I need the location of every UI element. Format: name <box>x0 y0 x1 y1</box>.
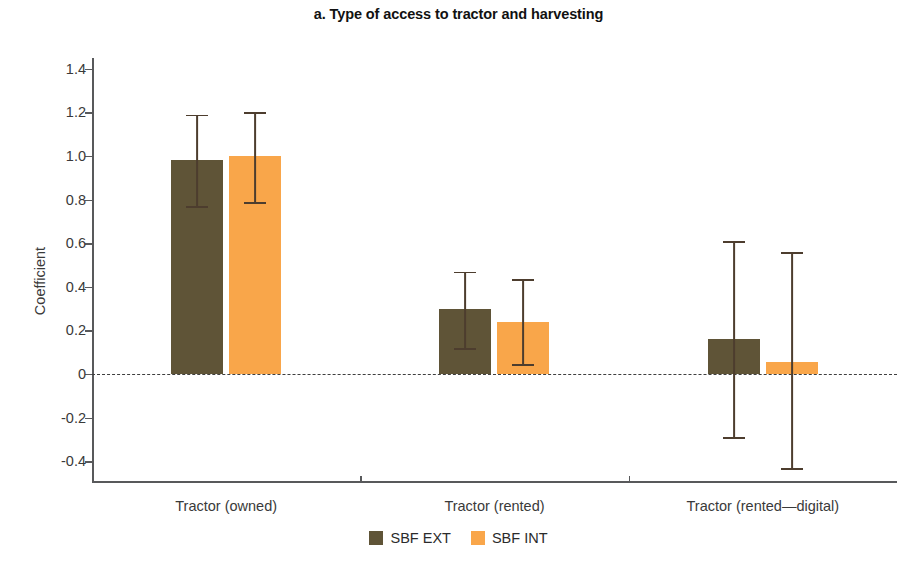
legend-swatch <box>471 531 485 545</box>
y-tick-label: 0 <box>78 366 86 382</box>
error-bar-cap-upper <box>781 252 803 254</box>
y-tick-label: 0.6 <box>66 235 86 251</box>
error-bar-cap-lower <box>723 437 745 439</box>
y-tick-mark <box>85 243 92 244</box>
y-tick-label: 1.4 <box>66 61 86 77</box>
bar-group: Tractor (rented—digital) <box>629 58 897 483</box>
y-tick-label: 0.8 <box>66 192 86 208</box>
y-tick-label: 0.4 <box>66 279 86 295</box>
error-bar-cap-upper <box>723 241 745 243</box>
y-tick-mark <box>85 330 92 331</box>
error-bar-cap-lower <box>186 206 208 208</box>
y-tick-label: -0.2 <box>61 410 86 426</box>
legend-label: SBF INT <box>492 530 548 546</box>
plot-area: 1.41.21.00.80.60.40.20-0.2-0.4 Tractor (… <box>92 58 897 483</box>
y-tick-mark <box>85 374 92 375</box>
error-bar-cap-lower <box>244 202 266 204</box>
y-tick-mark <box>85 287 92 288</box>
y-tick-mark <box>85 418 92 419</box>
chart-title: a. Type of access to tractor and harvest… <box>0 6 917 22</box>
legend-item: SBF EXT <box>369 530 450 546</box>
y-tick-mark <box>85 461 92 462</box>
error-bar-line <box>733 241 735 437</box>
error-bar-line <box>791 252 793 468</box>
error-bar-cap-upper <box>512 279 534 281</box>
x-axis-category-label: Tractor (rented—digital) <box>687 498 840 514</box>
error-bar-cap-lower <box>512 364 534 366</box>
bar-group: Tractor (owned) <box>92 58 360 483</box>
x-axis-group-tick <box>629 476 630 483</box>
error-bar-cap-lower <box>454 348 476 350</box>
y-tick-label: 1.2 <box>66 104 86 120</box>
error-bar-line <box>465 272 467 348</box>
error-bar-cap-upper <box>454 272 476 274</box>
x-axis-category-label: Tractor (rented) <box>444 498 544 514</box>
y-tick-mark <box>85 200 92 201</box>
y-tick-mark <box>85 112 92 113</box>
y-axis-title: Coefficient <box>32 247 48 315</box>
chart-figure: a. Type of access to tractor and harvest… <box>0 0 917 562</box>
error-bar-line <box>254 112 256 201</box>
error-bar-cap-lower <box>781 468 803 470</box>
error-bar-cap-upper <box>244 112 266 114</box>
y-tick-mark <box>85 156 92 157</box>
legend-swatch <box>369 531 383 545</box>
y-tick-label: -0.4 <box>61 453 86 469</box>
chart-legend: SBF EXTSBF INT <box>0 530 917 546</box>
x-axis-group-tick <box>360 476 361 483</box>
error-bar-line <box>196 115 198 207</box>
y-tick-label: 1.0 <box>66 148 86 164</box>
legend-item: SBF INT <box>471 530 548 546</box>
error-bar-line <box>523 279 525 364</box>
bar-group: Tractor (rented) <box>360 58 628 483</box>
x-axis-category-label: Tractor (owned) <box>175 498 277 514</box>
error-bar-cap-upper <box>186 115 208 117</box>
y-tick-mark <box>85 69 92 70</box>
legend-label: SBF EXT <box>390 530 450 546</box>
y-tick-label: 0.2 <box>66 322 86 338</box>
